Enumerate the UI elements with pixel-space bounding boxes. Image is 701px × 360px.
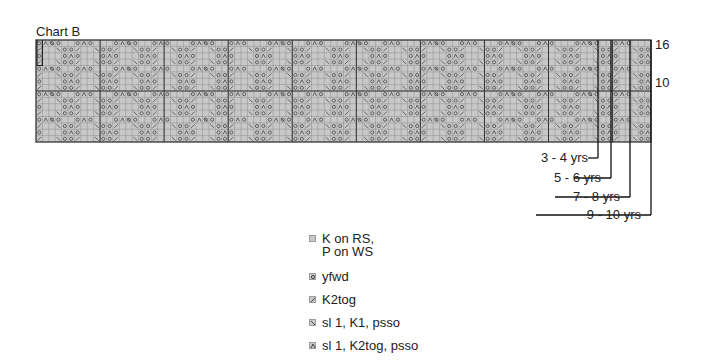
legend-label-line2: P on WS bbox=[322, 244, 373, 259]
legend-item-skpo: sl 1, K1, psso bbox=[309, 316, 400, 329]
sk2po-icon bbox=[309, 342, 316, 349]
yarn-over-icon bbox=[309, 273, 316, 280]
size-label-9-10-yrs: 9 - 10 yrs bbox=[587, 208, 641, 222]
plain-square-icon bbox=[309, 235, 316, 242]
k2tog-icon bbox=[309, 296, 316, 303]
legend-label-sk2po: sl 1, K2tog, psso bbox=[322, 339, 418, 352]
size-label-7-8-yrs: 7 - 8 yrs bbox=[573, 190, 620, 204]
legend-label-yfwd: yfwd bbox=[322, 270, 349, 283]
legend-item-k2tog: K2tog bbox=[309, 293, 356, 306]
row-label-16: 16 bbox=[655, 38, 669, 51]
legend-item-knit: K on RS, P on WS bbox=[309, 232, 374, 258]
legend-label-knit: K on RS, P on WS bbox=[322, 232, 374, 258]
size-label-5-6-yrs: 5 - 6 yrs bbox=[554, 171, 601, 185]
legend-item-yfwd: yfwd bbox=[309, 270, 349, 283]
row-label-10: 10 bbox=[655, 76, 669, 89]
legend-label-k2tog: K2tog bbox=[322, 293, 356, 306]
legend-label-skpo: sl 1, K1, psso bbox=[322, 316, 400, 329]
skpo-icon bbox=[309, 319, 316, 326]
legend-item-sk2po: sl 1, K2tog, psso bbox=[309, 339, 418, 352]
size-label-3-4-yrs: 3 - 4 yrs bbox=[541, 151, 588, 165]
